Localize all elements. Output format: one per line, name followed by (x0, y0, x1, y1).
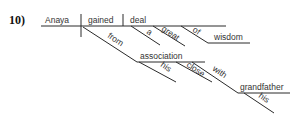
preposition-from: from (106, 30, 126, 48)
sentence-diagram: 10) Anaya gained deal a great of wisdom … (0, 0, 290, 121)
verb-word: gained (88, 15, 114, 25)
subject-word: Anaya (45, 15, 69, 25)
preposition-with: with (210, 63, 229, 80)
problem-number: 10) (9, 13, 25, 27)
modifier-line-a (131, 26, 160, 45)
prep-object-association: association (140, 51, 183, 61)
object-word: deal (130, 15, 146, 25)
prep-object-wisdom: wisdom (213, 32, 243, 42)
